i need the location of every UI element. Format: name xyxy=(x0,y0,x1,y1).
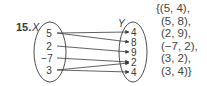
arrow-3-to-2 xyxy=(57,63,129,70)
arrow-3-to-4 xyxy=(57,70,129,72)
ordered-pair: (−7, 2), xyxy=(156,40,198,53)
domain-value: 2 xyxy=(46,41,52,52)
mapping-arrows xyxy=(57,32,129,72)
mapping-diagram: 15. X 5 2 −7 3 Y 4 8 9 2 4 xyxy=(0,0,150,86)
ordered-pairs-set: {(5, 4), (5, 8), (2, 9), (−7, 2), (3, 2)… xyxy=(156,2,198,78)
arrow-neg7-to-2 xyxy=(57,58,129,62)
arrow-5-to-4 xyxy=(57,32,129,33)
range-value: 4 xyxy=(131,67,137,78)
arrow-2-to-9 xyxy=(57,46,129,52)
domain-value: 3 xyxy=(46,65,52,76)
arrow-5-to-8 xyxy=(57,33,129,42)
problem-number: 15. xyxy=(16,21,31,33)
ordered-pair: (3, 2), xyxy=(156,52,198,65)
domain-value: −7 xyxy=(41,53,53,64)
ordered-pair: (3, 4)} xyxy=(156,65,198,78)
ordered-pair: (5, 8), xyxy=(156,15,198,28)
ordered-pair: (2, 9), xyxy=(156,27,198,40)
domain-value: 5 xyxy=(46,28,52,39)
ordered-pair: {(5, 4), xyxy=(156,2,198,15)
